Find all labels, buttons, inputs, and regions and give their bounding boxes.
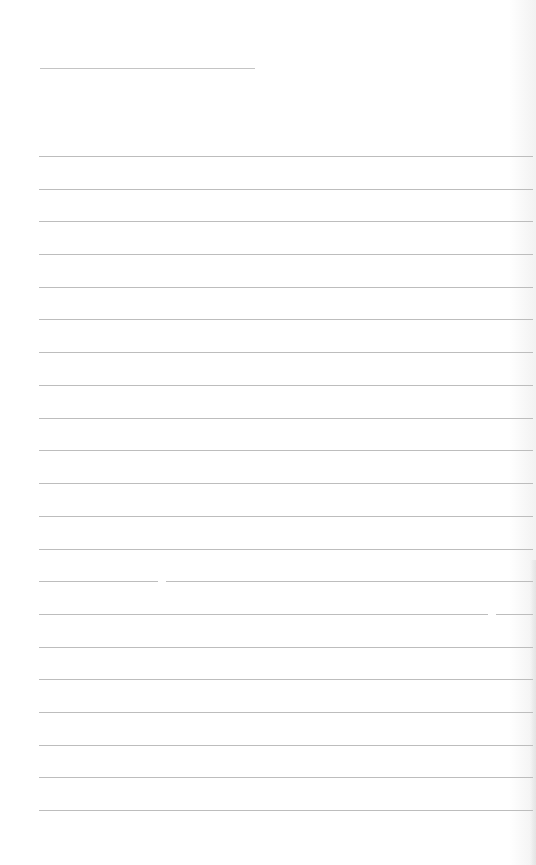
- ruled-line: [39, 156, 533, 157]
- ruled-line: [39, 712, 533, 713]
- ruled-line: [39, 221, 533, 222]
- ruled-line: [39, 614, 533, 615]
- line-gap: [488, 613, 496, 616]
- ruled-line: [39, 581, 533, 582]
- ruled-line: [39, 549, 533, 550]
- ruled-line: [39, 450, 533, 451]
- ruled-line: [39, 647, 533, 648]
- ruled-line: [39, 352, 533, 353]
- ruled-line: [39, 189, 533, 190]
- ruled-line: [39, 483, 533, 484]
- ruled-line: [39, 418, 533, 419]
- ruled-line: [39, 810, 533, 811]
- ruled-line: [39, 679, 533, 680]
- ruled-line: [39, 777, 533, 778]
- ruled-line: [39, 516, 533, 517]
- line-gap: [158, 580, 166, 583]
- ruled-line: [39, 287, 533, 288]
- ruled-line: [39, 319, 533, 320]
- lined-paper-page: [0, 0, 536, 865]
- ruled-line: [39, 745, 533, 746]
- ruled-line: [39, 385, 533, 386]
- header-rule-line: [40, 68, 255, 69]
- page-edge-shadow: [530, 560, 536, 865]
- ruled-line: [39, 254, 533, 255]
